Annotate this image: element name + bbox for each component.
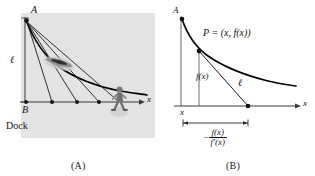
label-dock-panel-a: Dock — [6, 121, 28, 131]
caption-panel-a: (A) — [71, 160, 85, 171]
label-point-p-panel-b: P = (x, f(x)) — [203, 28, 251, 38]
label-subtangent-expression: − f(x) f′(x) — [203, 128, 227, 148]
axis-dot-3 — [97, 100, 101, 104]
label-rope-length-panel-a: ℓ — [10, 55, 14, 65]
label-x-axis-panel-a: x — [147, 95, 151, 104]
label-point-a-panel-a: A — [31, 5, 37, 15]
anchor-dot-a-panel-b — [180, 17, 185, 22]
subtangent-minus-sign: − — [203, 132, 208, 143]
label-f-of-x-panel-b: f(x) — [196, 72, 209, 81]
point-p-dot — [197, 49, 202, 54]
walker-shadow — [110, 107, 128, 117]
label-rope-length-panel-b: ℓ — [238, 78, 242, 88]
axis-dot-2 — [75, 100, 79, 104]
label-x-axis-panel-b: x — [303, 99, 307, 108]
anchor-dot-a — [24, 18, 29, 23]
subtangent-arrow-left — [183, 121, 188, 125]
subtangent-arrow-right — [243, 121, 248, 125]
x-axis-arrow-panel-b — [295, 103, 301, 108]
subtangent-numerator: f(x) — [210, 128, 227, 137]
panel-a-graphic — [0, 0, 158, 176]
caption-panel-b: (B) — [226, 160, 240, 171]
label-tick-x-panel-b: x — [180, 108, 184, 117]
label-point-a-panel-b: A — [173, 6, 179, 15]
subtangent-denominator: f′(x) — [209, 138, 227, 147]
label-point-b-panel-a: B — [22, 105, 28, 115]
figure-root: A B ℓ x Dock (A) A P = (x, f(x)) f(x — [0, 0, 315, 176]
tangent-foot-dot — [246, 104, 251, 109]
axis-dot-1 — [50, 100, 54, 104]
